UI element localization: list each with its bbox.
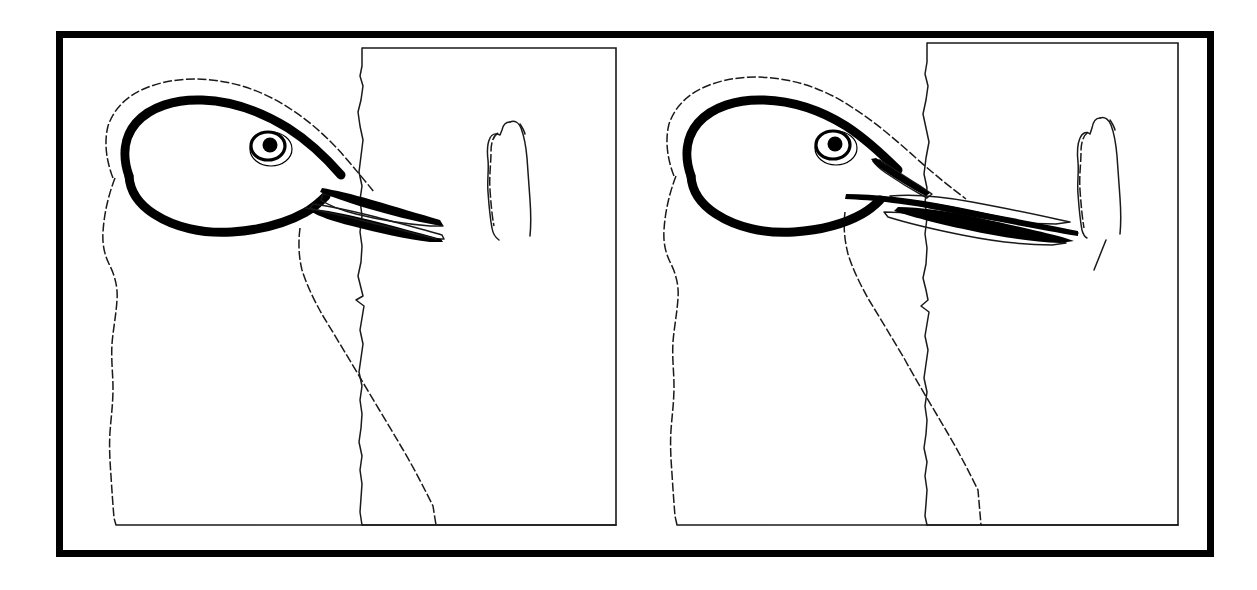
figure-container [0,0,1257,590]
skull-jaw-outline [129,176,326,232]
substrate-trunk-rectangle [362,48,616,525]
figure-illustration [0,0,1257,590]
upper-mandible-edge [871,158,930,196]
substrate-trunk-rectangle [927,43,1178,525]
panel-left [103,48,616,525]
trunk-bark-edge [356,48,364,525]
neck-body-outline [103,178,117,525]
skull-cranium-outline [125,100,341,176]
eye [250,132,292,166]
eye [815,131,857,165]
figure-border [60,35,1211,554]
throat-outline [299,228,436,525]
neck-body-outline [664,176,678,525]
throat-outline [844,212,981,525]
skull-cranium-outline [687,100,898,176]
trunk-bark-edge [921,43,929,525]
head-feather-outline [106,79,374,192]
tongue-hyoid-element [1077,117,1120,270]
panel-right [664,43,1178,525]
tongue-hyoid-element [487,121,530,240]
skull-jaw-outline [691,176,880,232]
